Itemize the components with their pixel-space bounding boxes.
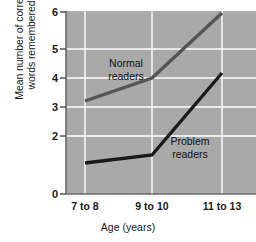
plot-background (66, 11, 256, 194)
chart-figure: Mean number of correct words remembered … (0, 0, 256, 242)
y-axis-ticks (60, 12, 66, 194)
series-annotation-problem-line-1: Problem (170, 135, 209, 147)
series-annotation-normal-line-2: readers (108, 70, 144, 82)
plot-area: Normal readers Problem readers (0, 0, 256, 242)
series-annotation-normal-line-1: Normal (109, 57, 143, 69)
series-annotation-problem-line-2: readers (172, 148, 208, 160)
